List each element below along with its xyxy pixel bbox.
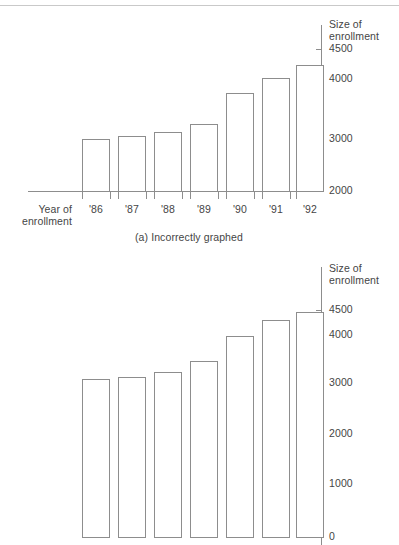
chart-b-bar-91: [262, 320, 290, 538]
chart-b-ylabel-0: 0: [329, 531, 335, 542]
chart-b-bar-90: [226, 336, 254, 538]
chart-b-correctly-graphed: 4500 4000 3000 2000 1000 0 Size of enrol…: [0, 0, 399, 545]
chart-b-bar-89: [190, 361, 218, 538]
chart-b-ytick-4500: [316, 310, 322, 311]
chart-b-y-axis-title-line1: Size of: [329, 263, 362, 275]
chart-b-bar-92: [296, 312, 324, 538]
chart-b-ylabel-1000: 1000: [329, 478, 353, 489]
chart-b-ylabel-4500: 4500: [329, 304, 353, 315]
chart-b-bar-87: [118, 377, 146, 538]
chart-b-bar-88: [154, 372, 182, 538]
chart-b-ylabel-4000: 4000: [329, 329, 353, 340]
chart-b-ylabel-2000: 2000: [329, 428, 353, 439]
chart-b-y-axis-title-line2: enrollment: [329, 275, 379, 287]
chart-b-ylabel-3000: 3000: [329, 377, 353, 388]
chart-b-bar-86: [82, 379, 110, 538]
figure-page: 4500 4000 3000 2000 Size of enrollment '…: [0, 0, 399, 545]
